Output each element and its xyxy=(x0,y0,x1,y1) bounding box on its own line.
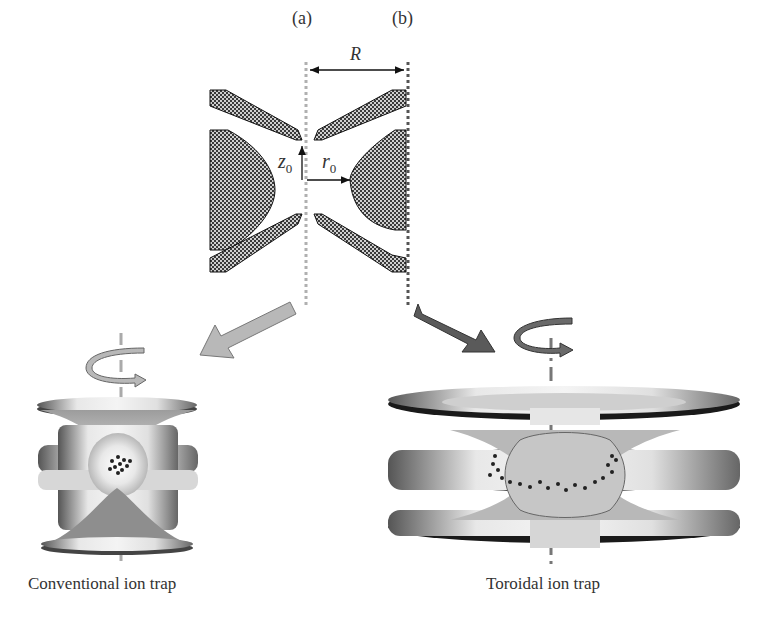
conventional-ion-trap-3d xyxy=(37,333,198,567)
radius-R-label: R xyxy=(350,44,361,65)
z0-label: z0 xyxy=(278,150,292,173)
line-b-label: (b) xyxy=(392,8,413,29)
right-ring-electrode xyxy=(350,130,406,230)
conventional-caption: Conventional ion trap xyxy=(28,574,176,594)
arrow-to-toroidal xyxy=(414,304,495,352)
rotation-arrow-icon xyxy=(86,348,146,387)
z-subscript: 0 xyxy=(286,161,293,176)
toroidal-caption: Toroidal ion trap xyxy=(486,574,600,594)
arrow-to-conventional xyxy=(200,302,296,358)
r-symbol: r xyxy=(322,150,330,172)
toroidal-ion-trap-3d xyxy=(388,318,740,570)
diagram-canvas xyxy=(0,0,772,628)
rotation-arrow-icon xyxy=(514,318,573,357)
line-a-label: (a) xyxy=(292,8,312,29)
z-symbol: z xyxy=(278,150,286,172)
r-subscript: 0 xyxy=(330,161,337,176)
r0-label: r0 xyxy=(322,150,336,173)
cross-section-schematic xyxy=(210,62,408,305)
